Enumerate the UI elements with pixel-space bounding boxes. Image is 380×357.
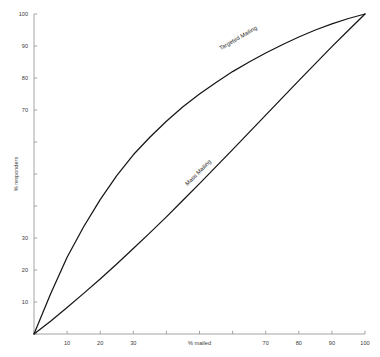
series-label-targeted-mailing: Targeted Mailing (218, 25, 258, 52)
y-tick-label: 70 (22, 107, 28, 113)
y-axis-title: % responders (13, 157, 19, 192)
y-tick-label: 80 (22, 75, 28, 81)
x-tick-label: 90 (329, 340, 335, 346)
x-tick-label: 80 (296, 340, 302, 346)
x-tick-label: 70 (263, 340, 269, 346)
series-label-mass-mailing: Mass Mailing (184, 158, 212, 186)
x-tick-label: 100 (360, 340, 369, 346)
x-tick-label: 10 (64, 340, 70, 346)
x-tick-label: 20 (97, 340, 103, 346)
y-tick-label: 10 (22, 299, 28, 305)
y-tick-label: 20 (22, 267, 28, 273)
x-axis-title: % mailed (188, 340, 211, 346)
axis-titles-group: % mailed% responders (13, 157, 211, 346)
x-tick-label: 30 (130, 340, 136, 346)
chart-plot-area: 102030708090100102030708090100 Targeted … (0, 0, 380, 357)
y-tick-label: 100 (19, 11, 28, 17)
y-tick-label: 90 (22, 43, 28, 49)
chart-container: 102030708090100102030708090100 Targeted … (0, 0, 380, 357)
y-tick-label: 30 (22, 235, 28, 241)
